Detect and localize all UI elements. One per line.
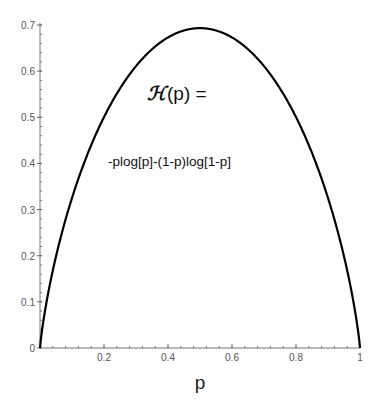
axes: [40, 23, 360, 348]
series-line-entropy: [40, 28, 360, 348]
x-tick-label: 0.8: [289, 352, 303, 363]
y-tick-label: 0: [29, 343, 35, 354]
entropy-chart: 0.20.40.60.8100.10.20.30.40.50.60.7 p ℋ(…: [0, 0, 379, 408]
script-h-symbol: ℋ: [147, 82, 169, 104]
x-tick-label: 0.6: [225, 352, 239, 363]
y-tick-label: 0.6: [21, 66, 35, 77]
ticks: [37, 25, 360, 348]
y-tick-label: 0.4: [21, 158, 35, 169]
x-tick-label: 0.2: [97, 352, 111, 363]
x-tick-label: 0.4: [161, 352, 175, 363]
y-tick-label: 0.7: [21, 20, 35, 31]
y-tick-label: 0.1: [21, 297, 35, 308]
tick-labels: 0.20.40.60.8100.10.20.30.40.50.60.7: [21, 20, 363, 363]
x-axis-title: p: [195, 372, 206, 393]
annotation-lhs-rest: (p) =: [167, 83, 207, 104]
annotation-formula-rhs: -plog[p]-(1-p)log[1-p]: [108, 154, 231, 169]
x-tick-label: 1: [357, 352, 363, 363]
annotation-formula-lhs: ℋ(p) =: [147, 82, 207, 104]
y-tick-label: 0.3: [21, 205, 35, 216]
y-tick-label: 0.5: [21, 112, 35, 123]
y-tick-label: 0.2: [21, 251, 35, 262]
